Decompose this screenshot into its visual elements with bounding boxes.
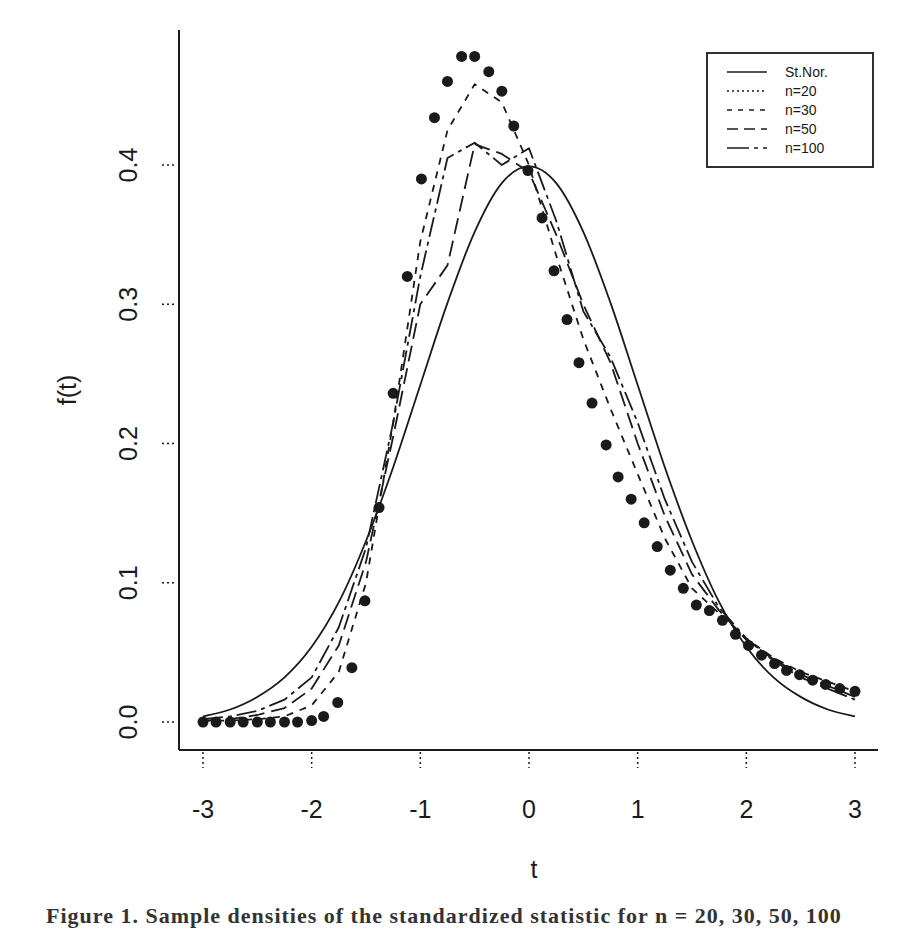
x-axis-ticks: -3-2-10123 [192, 752, 862, 823]
y-tick-label: 0.2 [114, 426, 142, 461]
figure-caption: Figure 1. Sample densities of the standa… [46, 903, 842, 929]
data-point [456, 51, 467, 62]
data-point [469, 51, 480, 62]
data-point [613, 471, 624, 482]
data-point [678, 583, 689, 594]
data-point [665, 565, 676, 576]
y-tick-label: 0.1 [114, 565, 142, 600]
series-n-100-line [203, 143, 855, 720]
x-tick-label: -1 [409, 795, 431, 823]
data-point [346, 662, 357, 673]
data-point [332, 697, 343, 708]
y-axis-title: f(t) [53, 375, 81, 406]
x-tick-label: -3 [192, 795, 214, 823]
data-point [548, 265, 559, 276]
data-point [429, 112, 440, 123]
data-point [639, 517, 650, 528]
y-tick-label: 0.3 [114, 287, 142, 322]
y-tick-label: 0.4 [114, 148, 142, 183]
data-point [416, 173, 427, 184]
x-tick-label: 3 [848, 795, 862, 823]
data-point [537, 212, 548, 223]
legend: St.Nor.n=20n=30n=50n=100 [707, 53, 873, 167]
x-tick-label: 2 [739, 795, 753, 823]
data-point [601, 439, 612, 450]
data-point [402, 271, 413, 282]
data-point [292, 717, 303, 728]
data-point [306, 715, 317, 726]
data-point [626, 494, 637, 505]
x-tick-label: 0 [522, 795, 536, 823]
series-st-nor-line [203, 166, 855, 716]
data-point [562, 314, 573, 325]
legend-label: St.Nor. [785, 64, 828, 80]
data-point [279, 717, 290, 728]
x-axis-title: t [531, 855, 538, 883]
legend-label: n=50 [785, 121, 817, 137]
data-point [652, 541, 663, 552]
series-n-50-line [203, 144, 855, 721]
data-point [483, 66, 494, 77]
data-point [318, 711, 329, 722]
y-tick-label: 0.0 [114, 705, 142, 740]
data-point [573, 357, 584, 368]
data-point [691, 600, 702, 611]
legend-label: n=30 [785, 102, 817, 118]
data-point [442, 76, 453, 87]
y-axis-ticks: 0.00.10.20.30.4 [114, 148, 177, 740]
legend-label: n=20 [785, 83, 817, 99]
x-tick-label: -2 [301, 795, 323, 823]
x-tick-label: 1 [631, 795, 645, 823]
data-point [587, 398, 598, 409]
legend-label: n=100 [785, 140, 825, 156]
data-point [496, 86, 507, 97]
series-n-30-line [203, 84, 855, 720]
